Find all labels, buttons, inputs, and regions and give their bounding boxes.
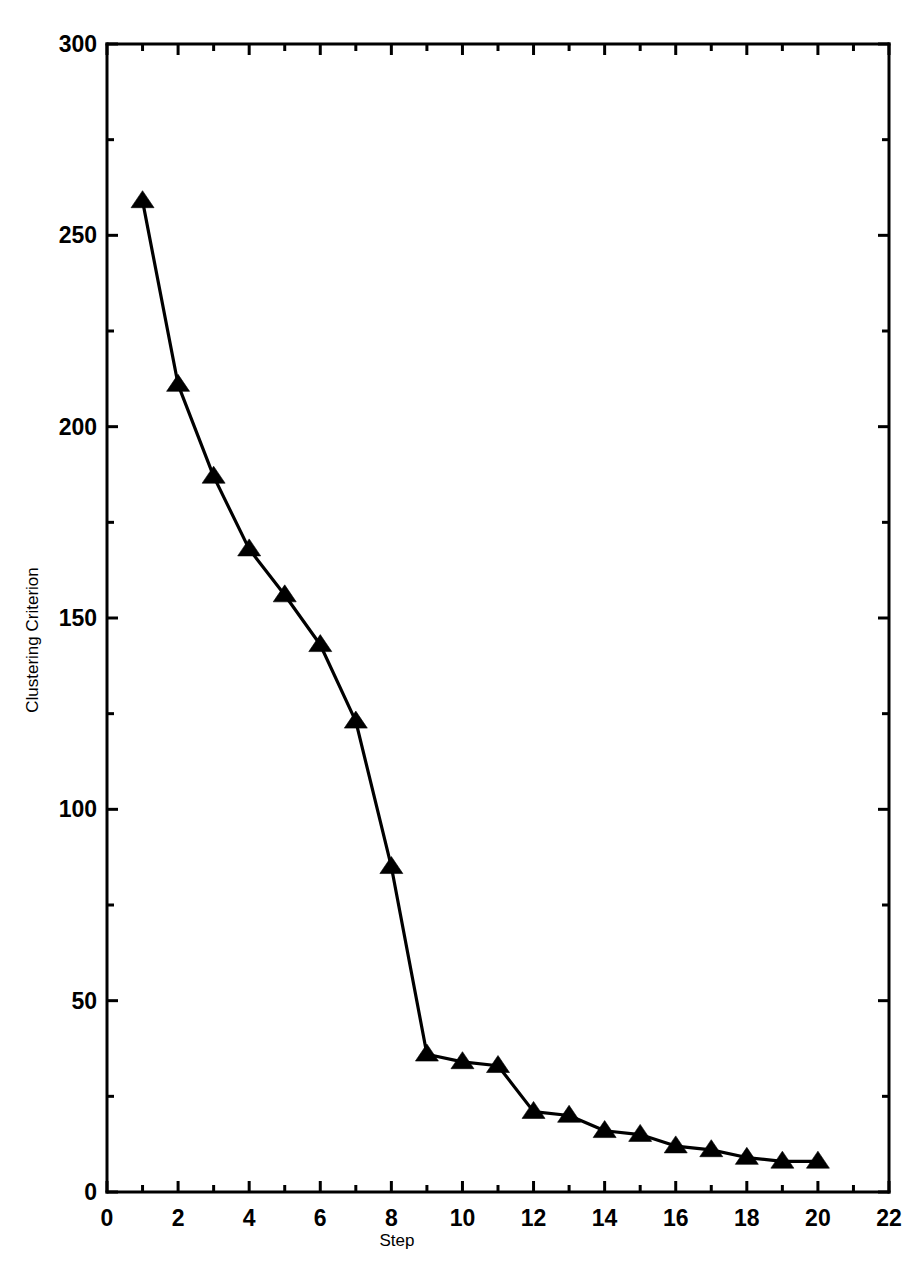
- data-point-marker: [593, 1121, 616, 1138]
- axis-frame: [107, 44, 889, 1192]
- x-tick-label: 16: [663, 1205, 689, 1231]
- data-series-line: [143, 201, 818, 1162]
- axis-ticks: [107, 44, 889, 1192]
- series-polyline: [143, 201, 818, 1162]
- x-tick-label: 10: [450, 1205, 476, 1231]
- data-point-marker: [273, 585, 296, 602]
- data-point-marker: [309, 635, 332, 652]
- x-tick-label: 12: [521, 1205, 547, 1231]
- data-point-markers: [131, 191, 829, 1168]
- axis-tick-labels: 0501001502002503000246810121416182022: [59, 31, 902, 1231]
- data-point-marker: [167, 374, 190, 391]
- data-point-marker: [380, 857, 403, 874]
- clustering-criterion-chart: 0501001502002503000246810121416182022 St…: [0, 0, 919, 1264]
- y-tick-label: 200: [59, 414, 97, 440]
- x-axis-title: Step: [380, 1231, 415, 1250]
- x-tick-label: 14: [592, 1205, 618, 1231]
- x-tick-label: 8: [385, 1205, 398, 1231]
- x-tick-label: 22: [876, 1205, 902, 1231]
- x-tick-label: 18: [734, 1205, 760, 1231]
- y-tick-label: 300: [59, 31, 97, 57]
- plot-area: 0501001502002503000246810121416182022 St…: [0, 0, 919, 1264]
- x-tick-label: 2: [172, 1205, 185, 1231]
- data-point-marker: [131, 191, 154, 208]
- data-point-marker: [238, 539, 261, 556]
- data-point-marker: [202, 466, 225, 483]
- data-point-marker: [806, 1151, 829, 1168]
- x-tick-label: 20: [805, 1205, 831, 1231]
- y-tick-label: 250: [59, 222, 97, 248]
- data-point-marker: [522, 1101, 545, 1118]
- data-point-marker: [415, 1044, 438, 1061]
- y-tick-label: 0: [84, 1179, 97, 1205]
- x-tick-label: 6: [314, 1205, 327, 1231]
- y-tick-label: 50: [71, 988, 97, 1014]
- x-tick-label: 0: [101, 1205, 114, 1231]
- x-tick-label: 4: [243, 1205, 256, 1231]
- data-point-marker: [344, 711, 367, 728]
- y-tick-label: 100: [59, 796, 97, 822]
- y-axis-title: Clustering Criterion: [23, 567, 42, 713]
- y-tick-label: 150: [59, 605, 97, 631]
